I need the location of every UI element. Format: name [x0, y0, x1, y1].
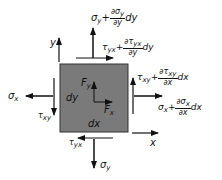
tau-xy-right-expression: τxy+∂τxy∂xdx — [137, 68, 189, 87]
y-axis-label: y — [50, 38, 56, 48]
diagram-graphics — [0, 0, 222, 180]
sigma-x-right-expression: σx+∂σx∂xdx — [158, 98, 202, 117]
tau-yx-bottom-label: τyx — [69, 139, 82, 149]
stress-element-diagram: y x dy dx Fy Fx σx τxy τyx σy σy+∂σy∂ydy… — [0, 0, 222, 180]
sigma-y-top-expression: σy+∂σy∂ydy — [91, 8, 138, 27]
dy-label: dy — [66, 93, 78, 103]
sigma-y-bottom-label: σy — [100, 160, 111, 172]
sigma-x-label: σx — [8, 91, 19, 103]
tau-yx-top-expression: τyx+∂τyx∂ydy — [102, 38, 154, 57]
x-axis-label: x — [150, 138, 156, 148]
tau-xy-label: τxy — [38, 112, 51, 122]
fx-label: Fx — [104, 105, 114, 117]
dx-label: dx — [88, 119, 100, 129]
fy-label: Fy — [81, 78, 91, 90]
